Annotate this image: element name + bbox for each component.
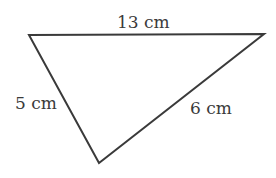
triangle-svg: 13 cm 5 cm 6 cm — [0, 0, 276, 178]
side-label-top: 13 cm — [117, 12, 170, 32]
side-label-left: 5 cm — [15, 93, 57, 113]
triangle-diagram: 13 cm 5 cm 6 cm — [0, 0, 276, 178]
side-label-right: 6 cm — [190, 98, 232, 118]
